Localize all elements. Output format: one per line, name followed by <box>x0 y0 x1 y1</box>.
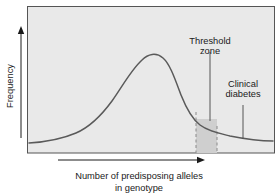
x-axis-arrow-head <box>197 157 205 163</box>
y-axis-label: Frequency <box>5 64 15 108</box>
y-axis-arrow-head <box>18 26 24 34</box>
clinical-diabetes-label-line2: diabetes <box>225 89 261 99</box>
clinical-diabetes-label-line1: Clinical <box>228 79 258 89</box>
x-axis-label-line1: Number of predisposing alleles <box>75 171 203 181</box>
x-axis-label-line2: in genotype <box>115 183 163 193</box>
threshold-zone-label-line1: Threshold <box>189 36 230 46</box>
figure-container: Threshold zone Clinical diabetes Frequen… <box>0 0 279 196</box>
distribution-chart: Threshold zone Clinical diabetes Frequen… <box>0 0 279 196</box>
threshold-zone-label-line2: zone <box>200 46 220 56</box>
